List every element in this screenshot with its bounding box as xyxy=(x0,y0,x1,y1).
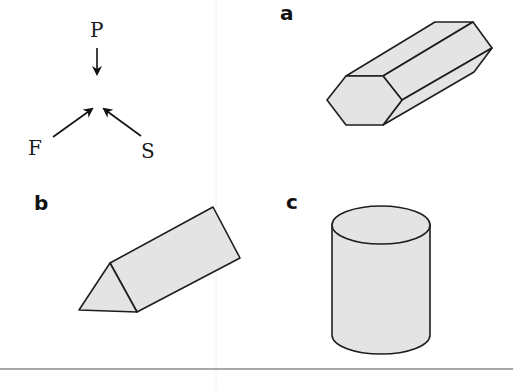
arrow-s-icon xyxy=(104,109,141,136)
label-p: P xyxy=(90,18,103,42)
panel-label-b: b xyxy=(34,191,48,215)
cylinder-icon xyxy=(332,206,430,354)
label-s: S xyxy=(141,139,155,163)
panel-label-c: c xyxy=(286,190,298,214)
label-f: F xyxy=(28,136,42,160)
panel-c: c xyxy=(286,190,430,354)
force-diagram: P F S xyxy=(28,18,155,163)
arrow-f-icon xyxy=(53,109,92,137)
hexagonal-prism-icon xyxy=(327,22,492,125)
figure-canvas: P F S a b c xyxy=(0,0,513,389)
panel-a: a xyxy=(280,1,492,125)
panel-label-a: a xyxy=(280,1,294,25)
panel-b: b xyxy=(34,191,240,312)
